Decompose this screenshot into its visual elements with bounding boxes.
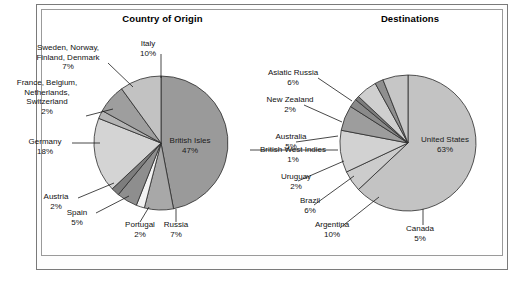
label-united-states-name: United States	[421, 135, 469, 144]
figure-canvas: Country of Origin Sweden, Norway, Finlan…	[0, 0, 512, 282]
label-austria-name: Austria	[44, 192, 69, 201]
label-france-belgium-netherlands-switzerland: France, Belgium, Netherlands, Switzerlan…	[6, 78, 88, 116]
label-russia-pct: 7%	[151, 230, 201, 240]
label-british-isles: British Isles 47%	[162, 136, 218, 155]
label-bwi-pct: 1%	[244, 155, 342, 165]
label-germany: Germany 18%	[18, 137, 72, 156]
label-sweden-line2: Finland, Denmark	[36, 53, 99, 62]
label-france-line2: Netherlands,	[24, 88, 69, 97]
label-uruguay: Uruguay 2%	[268, 172, 324, 191]
label-canada-pct: 5%	[394, 234, 446, 244]
label-asiatic-russia-pct: 6%	[257, 78, 329, 88]
label-sweden-norway-finland-denmark: Sweden, Norway, Finland, Denmark 7%	[20, 43, 116, 72]
label-brazil-name: Brazil	[300, 196, 320, 205]
label-united-states-pct: 63%	[411, 145, 479, 155]
label-brazil-pct: 6%	[286, 206, 334, 216]
label-italy-pct: 10%	[128, 49, 168, 59]
label-france-pct: 2%	[6, 107, 88, 117]
label-canada: Canada 5%	[394, 224, 446, 243]
label-asiatic-russia-name: Asiatic Russia	[268, 68, 318, 77]
label-new-zealand-name: New Zealand	[266, 95, 313, 104]
label-brazil: Brazil 6%	[286, 196, 334, 215]
label-canada-name: Canada	[406, 224, 434, 233]
label-bwi-name: British West Indies	[260, 145, 326, 154]
label-united-states: United States 63%	[411, 135, 479, 154]
label-uruguay-pct: 2%	[268, 182, 324, 192]
label-asiatic-russia: Asiatic Russia 6%	[257, 68, 329, 87]
label-british-west-indies: British West Indies 1%	[244, 145, 342, 164]
label-sweden-pct: 7%	[20, 62, 116, 72]
label-france-line1: France, Belgium,	[17, 78, 77, 87]
label-germany-pct: 18%	[18, 147, 72, 157]
label-france-line3: Switzerland	[26, 97, 67, 106]
leader-spain	[96, 196, 129, 213]
leader-austria	[78, 183, 114, 198]
label-new-zealand-pct: 2%	[254, 105, 326, 115]
label-argentina: Argentina 10%	[300, 220, 364, 239]
label-spain-name: Spain	[67, 208, 87, 217]
label-sweden-line1: Sweden, Norway,	[37, 43, 99, 52]
label-italy: Italy 10%	[128, 39, 168, 58]
label-uruguay-name: Uruguay	[281, 172, 311, 181]
label-new-zealand: New Zealand 2%	[254, 95, 326, 114]
label-spain-pct: 5%	[56, 218, 98, 228]
label-british-isles-pct: 47%	[162, 146, 218, 156]
label-russia: Russia 7%	[151, 220, 201, 239]
label-italy-name: Italy	[141, 39, 156, 48]
label-british-isles-name: British Isles	[170, 136, 211, 145]
label-russia-name: Russia	[164, 220, 188, 229]
label-spain: Spain 5%	[56, 208, 98, 227]
label-germany-name: Germany	[29, 137, 62, 146]
label-australia-name: Australia	[275, 132, 306, 141]
label-argentina-pct: 10%	[300, 230, 364, 240]
label-argentina-name: Argentina	[315, 220, 349, 229]
